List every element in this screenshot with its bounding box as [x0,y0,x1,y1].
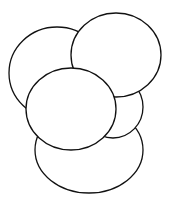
overlapping-circles-diagram [0,0,170,202]
circle-center [26,68,116,150]
